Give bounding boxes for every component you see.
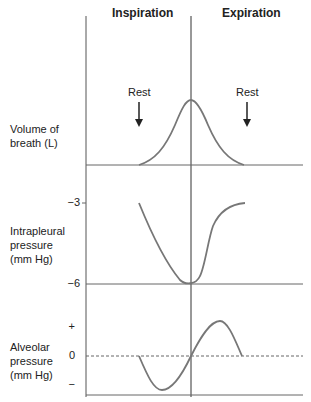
- header-inspiration: Inspiration: [112, 6, 173, 20]
- header-expiration: Expiration: [222, 6, 281, 20]
- label-line: pressure: [10, 238, 65, 252]
- tick-label-minus6: −6: [60, 277, 80, 289]
- intrapleural-axis-label: Intrapleural pressure (mm Hg): [10, 224, 65, 266]
- volume-axis-label: Volume of breath (L): [10, 122, 59, 150]
- label-line: Volume of: [10, 122, 59, 136]
- label-line: (mm Hg): [10, 368, 53, 382]
- rest-label-right: Rest: [236, 85, 259, 99]
- label-line: (mm Hg): [10, 252, 65, 266]
- tick-label-minus3: −3: [60, 196, 80, 208]
- tick-label-plus: +: [55, 320, 75, 332]
- label-line: Alveolar: [10, 340, 53, 354]
- intrapleural-curve: [139, 203, 245, 283]
- rest-arrow-right-icon: [243, 102, 251, 127]
- label-line: breath (L): [10, 136, 59, 150]
- tick-label-minus: −: [55, 378, 75, 390]
- alveolar-axis-label: Alveolar pressure (mm Hg): [10, 340, 53, 382]
- tick-label-zero: 0: [55, 349, 75, 361]
- label-line: Intrapleural: [10, 224, 65, 238]
- rest-arrow-left-icon: [135, 102, 143, 127]
- rest-label-left: Rest: [128, 85, 151, 99]
- label-line: pressure: [10, 354, 53, 368]
